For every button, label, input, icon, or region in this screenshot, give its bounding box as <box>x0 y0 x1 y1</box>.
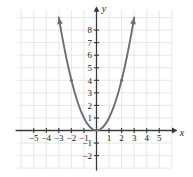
x-axis-label: x <box>179 127 185 138</box>
y-tick-label: 8 <box>88 25 93 35</box>
x-tick-label: −5 <box>29 133 39 143</box>
parabola-graph-figure: −5−4−3−2−112345−2−112345678 x y <box>0 0 193 177</box>
y-tick-label: −2 <box>82 151 92 161</box>
y-tick-label: 7 <box>88 38 93 48</box>
x-tick-label: 4 <box>144 133 149 143</box>
y-tick-label: 6 <box>88 50 93 60</box>
x-tick-label: 3 <box>132 133 137 143</box>
x-tick-label: 1 <box>107 133 112 143</box>
y-tick-label: 2 <box>88 101 93 111</box>
y-tick-label: 3 <box>88 88 93 98</box>
y-tick-label: 4 <box>88 76 93 86</box>
x-tick-label: −2 <box>67 133 77 143</box>
curve-point-marker <box>120 79 123 82</box>
x-tick-label: 5 <box>157 133 162 143</box>
y-tick-label: 1 <box>88 113 93 123</box>
curve-point-marker <box>70 79 73 82</box>
y-tick-label: 5 <box>88 63 93 73</box>
x-tick-label: 2 <box>119 133 124 143</box>
y-axis-label: y <box>101 3 107 14</box>
y-tick-label: −1 <box>82 138 92 148</box>
coordinate-plane-plot: −5−4−3−2−112345−2−112345678 x y <box>0 0 193 177</box>
x-tick-label: −4 <box>42 133 52 143</box>
x-tick-label: −3 <box>54 133 64 143</box>
